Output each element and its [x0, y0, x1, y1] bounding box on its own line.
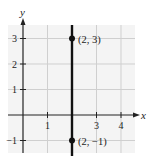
data-point-label: (2, 3): [78, 34, 101, 46]
data-point-label: (2, −1): [78, 136, 107, 148]
x-tick-label: 4: [119, 120, 124, 131]
x-axis-label: x: [140, 109, 146, 121]
x-axis-arrow-icon: [133, 113, 140, 118]
data-point-marker: [69, 138, 75, 144]
x-tick-label: 3: [94, 120, 99, 131]
y-axis-label: y: [19, 6, 25, 18]
y-tick-label: 1: [12, 84, 17, 95]
y-axis-arrow-icon: [21, 18, 26, 25]
coordinate-plane: 134−1123 (2, 3)(2, −1) x y: [0, 0, 155, 156]
y-tick-label: 2: [12, 59, 17, 70]
y-tick-label: −1: [6, 135, 17, 146]
data-point-marker: [69, 36, 75, 42]
x-tick-label: 1: [45, 120, 50, 131]
y-tick-label: 3: [12, 33, 17, 44]
